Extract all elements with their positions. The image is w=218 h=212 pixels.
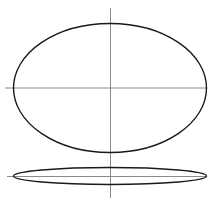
ellipse-diagram (0, 0, 218, 212)
